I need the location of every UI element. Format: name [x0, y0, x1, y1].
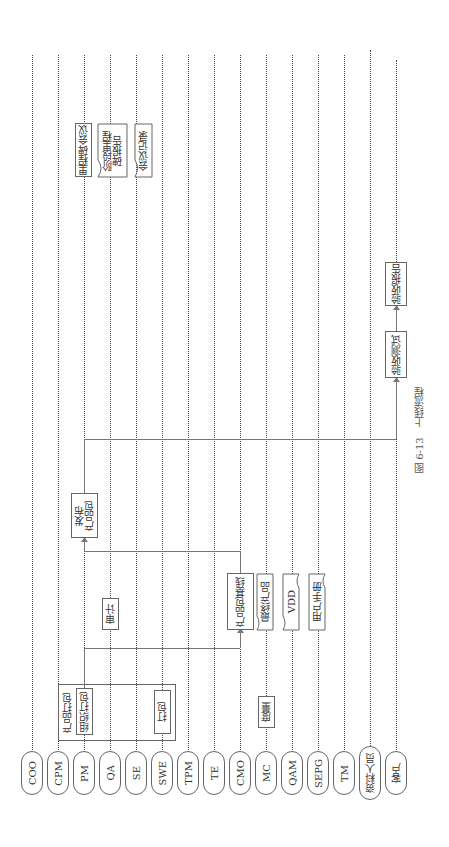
release-package-box: 发布 产品包 — [71, 493, 98, 538]
lane-line-tm — [344, 55, 345, 750]
milestone-meeting-box: 里程碑会议 — [75, 123, 92, 177]
lane-header-qam: QAM — [281, 751, 303, 795]
lane-line-cpm — [58, 55, 59, 750]
lane-label: MC — [261, 764, 272, 782]
node-label: 验收报告 — [391, 264, 402, 304]
node-label: 审计 — [105, 604, 116, 624]
lane-header-coo: COO — [21, 751, 43, 795]
acceptance-test-box: 验收测试 — [385, 331, 407, 378]
meeting-minutes-label: 会议记录 — [135, 125, 152, 176]
lane-header-tpm: TPM — [177, 751, 199, 795]
lane-header-se: SE — [125, 751, 147, 795]
connector — [84, 439, 85, 493]
node-label: 用户手册 — [312, 582, 323, 622]
lane-header-sepg: SEPG — [307, 751, 329, 795]
node-label-line1: 发布 — [75, 506, 85, 526]
milestone-report-label: 阶段里程 碑报告 — [99, 125, 127, 176]
lane-label: TM — [339, 765, 350, 782]
final-product-label: 最终产品 — [257, 575, 273, 629]
lane-label: PM — [79, 765, 90, 782]
node-label: 最终产品 — [260, 582, 271, 622]
lane-label: COO — [27, 761, 38, 785]
lane-line-sepg — [318, 55, 319, 750]
node-label: 度量 — [261, 702, 272, 722]
node-label: VDD — [286, 590, 297, 613]
group-label: 产品打包 — [62, 690, 73, 736]
lane-label: 客户 — [391, 763, 402, 783]
lane-header-mc: MC — [255, 751, 277, 795]
lane-line-coo — [32, 55, 33, 750]
node-label: 会议记录 — [138, 131, 149, 171]
lane-label: SEPG — [313, 759, 324, 788]
lane-header-writer: 资料人员 — [359, 746, 381, 800]
lane-label: TE — [209, 766, 220, 780]
acceptance-report-box: 验收报告 — [385, 262, 407, 306]
connector — [84, 551, 240, 552]
node-label-line2: 产品包 — [85, 501, 95, 531]
node-label: 组织打包 — [79, 692, 90, 732]
lane-label: 资料人员 — [365, 753, 376, 793]
lane-label: SWE — [157, 761, 168, 785]
connector — [84, 439, 396, 440]
node-label: 产品包基线 — [235, 577, 246, 627]
lane-label: QAM — [287, 760, 298, 786]
lane-line-te — [214, 55, 215, 750]
lane-header-te: TE — [203, 751, 225, 795]
node-label: 打包 — [157, 702, 168, 722]
connector — [240, 551, 241, 573]
lane-header-cmo: CMO — [229, 751, 251, 795]
lane-label: CPM — [53, 761, 64, 786]
figure-caption: 图 6-13 上线流程 — [414, 380, 425, 480]
organize-packaging-box: 组织打包 — [76, 688, 93, 735]
connector — [84, 648, 85, 688]
lane-line-writer — [370, 50, 371, 746]
lane-label: QA — [105, 765, 116, 780]
lane-header-qa: QA — [99, 751, 121, 795]
lane-label: TPM — [183, 761, 194, 785]
node-label: 验收测试 — [391, 335, 402, 375]
lane-label: SE — [131, 766, 142, 780]
lane-header-pm: PM — [73, 751, 95, 795]
lane-header-customer: 客户 — [385, 751, 407, 795]
baseline-box: 产品包基线 — [227, 573, 254, 630]
node-label: 里程碑会议 — [78, 125, 89, 175]
lane-label: CMO — [235, 760, 246, 786]
user-manual-label: 用户手册 — [309, 575, 325, 629]
metrics-box: 度量 — [258, 696, 275, 728]
audit-box: 审计 — [102, 598, 119, 630]
vdd-label: VDD — [283, 575, 299, 629]
packaging-box: 打包 — [154, 690, 171, 734]
lane-line-mc — [266, 55, 267, 750]
lane-line-tpm — [188, 55, 189, 750]
node-label-line2: 碑报告 — [113, 136, 123, 166]
lane-header-swe: SWE — [151, 751, 173, 795]
connector — [396, 378, 397, 439]
lane-line-qam — [292, 55, 293, 750]
lane-header-cpm: CPM — [47, 751, 69, 795]
swimlane-diagram: COO CPM PM QA SE SWE TPM TE CMO MC QAM S… — [0, 0, 449, 847]
lane-header-tm: TM — [333, 751, 355, 795]
connector — [84, 648, 240, 649]
lane-line-swe — [162, 55, 163, 750]
